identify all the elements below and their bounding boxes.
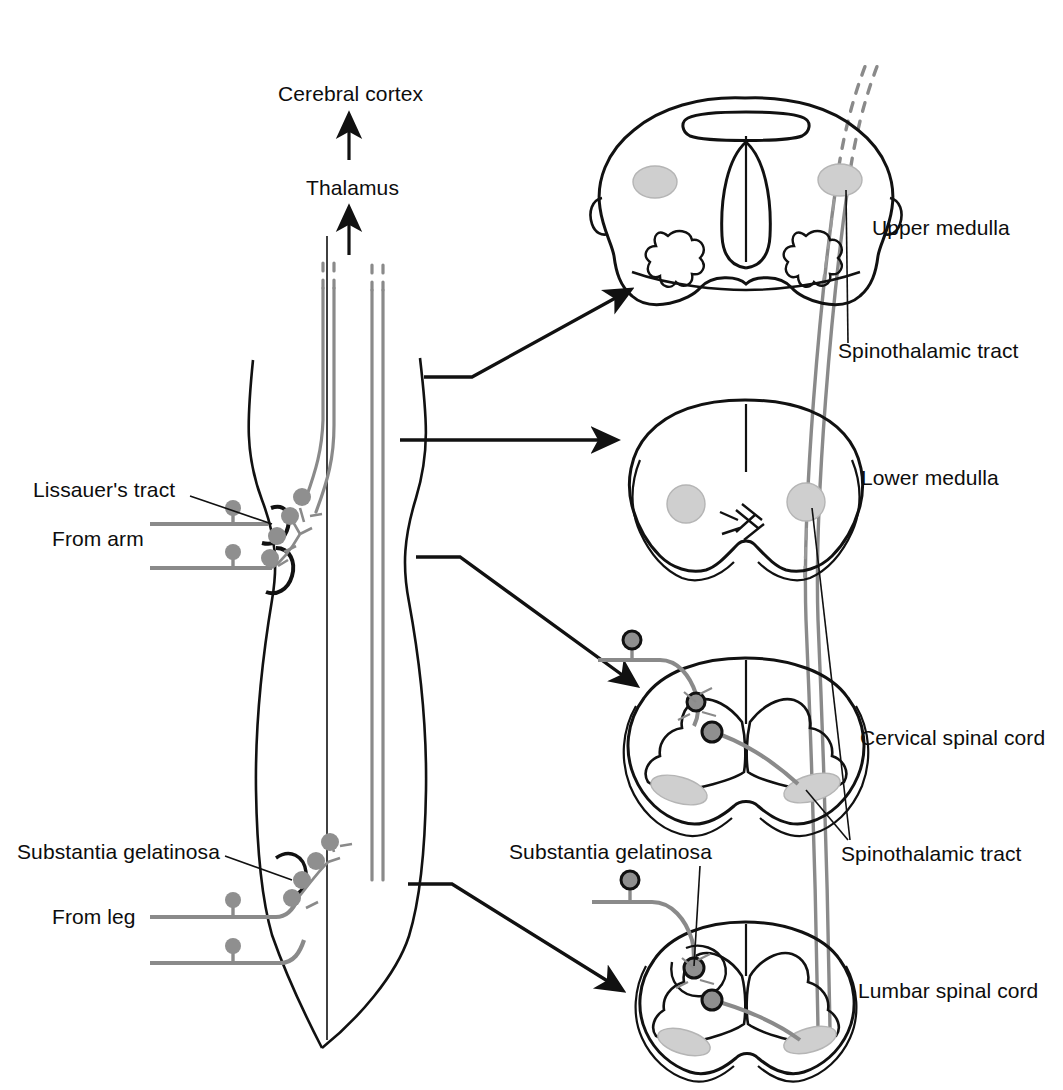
afferent-leg-upper — [150, 898, 298, 917]
label-from-arm: From arm — [52, 527, 144, 551]
fiber-arm-ascending-a — [306, 288, 323, 498]
leader-spinothalamic-upper — [846, 190, 848, 343]
fiber-arm-ascending-b — [316, 288, 334, 512]
lumbar-second-order-soma — [702, 990, 722, 1010]
lower-medulla-tract-right — [787, 483, 825, 521]
label-upper-medulla: Upper medulla — [872, 216, 1010, 240]
upper-medulla-section — [590, 98, 901, 305]
pointer-arrows-to-sections — [400, 290, 636, 990]
upper-medulla-tract-right — [818, 164, 862, 196]
cervical-second-order-soma — [702, 722, 722, 742]
soma-leg-upper — [225, 892, 241, 908]
pathway-illustration — [0, 0, 1063, 1090]
pointer-to-upper-medulla — [424, 290, 630, 377]
lumbar-somas — [283, 833, 339, 907]
cervical-cord-section — [598, 631, 868, 836]
label-thalamus: Thalamus — [306, 176, 399, 200]
label-from-leg: From leg — [52, 905, 136, 929]
label-lower-medulla: Lower medulla — [861, 466, 999, 490]
pointer-to-cervical-cord — [416, 557, 636, 685]
cord-right-border — [322, 358, 426, 1048]
label-cervical-spinal-cord: Cervical spinal cord — [860, 726, 1045, 750]
inferior-olive-right — [784, 231, 842, 287]
label-spinothalamic-tract-upper: Spinothalamic tract — [838, 339, 1018, 363]
spinal-cord-longitudinal — [249, 236, 426, 1048]
leader-substantia-gelatinosa-lumbar — [694, 866, 700, 966]
cervical-tract-left — [648, 770, 711, 811]
label-substantia-gelatinosa-lumbar: Substantia gelatinosa — [509, 840, 712, 864]
leader-lissauers-tract — [190, 496, 272, 524]
label-lumbar-spinal-cord: Lumbar spinal cord — [858, 979, 1038, 1003]
label-spinothalamic-tract-cervical: Spinothalamic tract — [841, 842, 1021, 866]
label-cerebral-cortex: Cerebral cortex — [278, 82, 423, 106]
cord-left-border — [249, 360, 322, 1048]
lower-medulla-tract-left — [667, 485, 705, 523]
lumbar-afferent-soma — [621, 871, 639, 889]
upper-medulla-pyramid-left — [722, 142, 746, 268]
pointer-to-lumbar-cord — [408, 884, 622, 990]
upper-medulla-tract-left — [633, 166, 677, 198]
lower-medulla-section — [629, 400, 862, 580]
cervical-input-group — [150, 488, 322, 593]
pyramidal-decussation — [720, 504, 764, 540]
fiber-dash-terminals — [323, 258, 383, 290]
upper-medulla-pyramid-right — [746, 142, 770, 268]
soma-leg-lower — [225, 938, 241, 954]
cervical-afferent-soma — [623, 631, 641, 649]
soma-arm-lower — [225, 544, 241, 560]
figure-canvas: Cerebral cortex Thalamus Lissauer's trac… — [0, 0, 1063, 1090]
label-substantia-gelatinosa-left: Substantia gelatinosa — [17, 840, 220, 864]
label-lissauers-tract: Lissauer's tract — [33, 478, 175, 502]
ascending-tract-fibers — [306, 258, 383, 880]
